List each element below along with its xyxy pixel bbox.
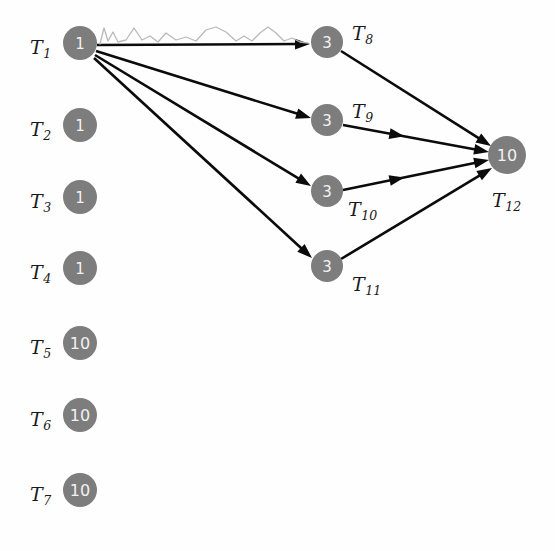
node-t10[interactable]: 3 (311, 175, 343, 207)
label-layer: T1T2T3T4T5T6T7T8T9T10T11T12 (30, 22, 521, 507)
arrowhead (389, 128, 405, 139)
node-label-text: T2 (30, 118, 51, 142)
node-value: 3 (322, 183, 332, 201)
node-label-t2: T2 (30, 118, 51, 142)
edge-t1-to-t11 (94, 58, 312, 258)
edge-t10-to-t12 (343, 158, 489, 190)
node-t1[interactable]: 1 (63, 26, 97, 60)
node-value: 3 (322, 258, 332, 276)
node-label-text: T5 (30, 336, 51, 360)
node-t11[interactable]: 3 (311, 250, 343, 282)
node-label-text: T4 (30, 261, 51, 285)
squiggle-line-icon (100, 27, 308, 44)
node-label-t4: T4 (30, 261, 51, 285)
node-value: 3 (322, 112, 332, 130)
edge-shaft (343, 125, 477, 150)
diagram-canvas: 1111101010333310 T1T2T3T4T5T6T7T8T9T10T1… (0, 0, 555, 551)
node-label-t1: T1 (30, 36, 51, 60)
node-label-t9: T9 (352, 100, 373, 124)
edge-layer (94, 39, 492, 259)
edge-t1-to-t8 (97, 39, 310, 50)
edge-shaft (341, 51, 481, 139)
node-label-t7: T7 (30, 483, 51, 507)
node-label-t10: T10 (348, 198, 377, 222)
node-value: 3 (322, 34, 332, 52)
node-label-t11: T11 (352, 273, 381, 297)
node-t6[interactable]: 10 (63, 398, 97, 432)
node-value: 10 (70, 334, 90, 353)
node-value: 10 (70, 406, 90, 425)
node-t9[interactable]: 3 (311, 104, 343, 136)
node-value: 1 (75, 260, 85, 278)
node-t7[interactable]: 10 (63, 473, 97, 507)
edge-shaft (94, 58, 303, 250)
arrowhead (476, 168, 492, 180)
edge-shaft (97, 44, 298, 45)
arrowhead (295, 108, 311, 118)
edge-shaft (96, 51, 299, 114)
task-dependency-graph: 1111101010333310 T1T2T3T4T5T6T7T8T9T10T1… (0, 0, 555, 551)
node-label-t5: T5 (30, 336, 51, 360)
node-value: 1 (75, 189, 85, 207)
node-label-text: T6 (30, 408, 51, 432)
node-value: 1 (75, 35, 85, 53)
node-label-t8: T8 (352, 22, 373, 46)
node-t4[interactable]: 1 (63, 251, 97, 285)
node-layer: 1111101010333310 (63, 26, 526, 507)
edge-t8-to-t12 (341, 51, 491, 146)
node-label-t12: T12 (492, 189, 521, 213)
arrowhead (473, 144, 489, 155)
node-label-text: T9 (352, 100, 373, 124)
edge-t1-to-t10 (95, 55, 311, 186)
decoration-layer (100, 27, 308, 44)
node-label-text: T7 (30, 483, 51, 507)
node-label-text: T12 (492, 189, 521, 213)
node-t12[interactable]: 10 (488, 136, 526, 174)
node-t5[interactable]: 10 (63, 326, 97, 360)
node-label-t6: T6 (30, 408, 51, 432)
node-label-text: T8 (352, 22, 373, 46)
node-label-text: T1 (30, 36, 51, 60)
node-t2[interactable]: 1 (63, 108, 97, 142)
arrowhead (475, 133, 491, 146)
node-value: 10 (497, 146, 517, 165)
node-label-text: T3 (30, 190, 51, 214)
node-value: 1 (75, 117, 85, 135)
edge-shaft (95, 55, 300, 180)
edge-t1-to-t9 (96, 51, 311, 119)
arrowhead (295, 174, 311, 186)
node-t8[interactable]: 3 (311, 26, 343, 58)
node-label-t3: T3 (30, 190, 51, 214)
node-label-text: T11 (352, 273, 381, 297)
arrowhead (473, 158, 489, 169)
node-value: 10 (70, 481, 90, 500)
edge-shaft (343, 162, 477, 190)
node-label-text: T10 (348, 198, 377, 222)
node-t3[interactable]: 1 (63, 180, 97, 214)
